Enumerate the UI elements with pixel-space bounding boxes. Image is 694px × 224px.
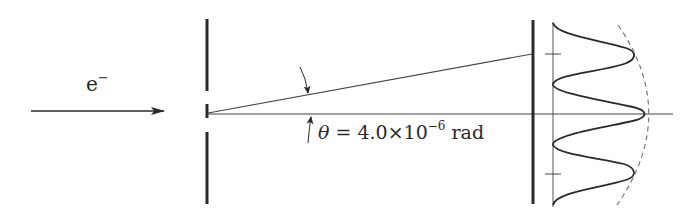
electron-label: e−	[86, 70, 109, 96]
ray-to-first-maximum	[208, 54, 532, 113]
double-slit-diagram: e− θ = 4.0×10−6 rad	[0, 0, 694, 224]
angle-label: θ = 4.0×10−6 rad	[318, 119, 484, 143]
angle-arrow-upper	[300, 67, 308, 93]
angle-arrow-lower	[308, 117, 311, 143]
